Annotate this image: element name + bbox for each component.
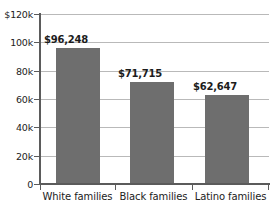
x-axis-label-latino-families: Latino families [192,191,269,202]
y-axis-label-80k: 80k [0,66,33,77]
x-axis-line [39,183,270,185]
x-tick-divider-1 [115,185,116,190]
bar-white-families[interactable] [56,48,100,184]
y-tick-40k [34,127,40,128]
x-axis-label-white-families: White families [40,191,115,202]
bar-black-families[interactable] [130,82,174,184]
x-tick-left [40,185,41,190]
x-tick-right [268,185,269,190]
y-axis-labels: $120k 100k 80k 60k 40k 20k 0 [0,0,33,213]
y-axis-label-20k: 20k [0,151,33,162]
x-axis-label-black-families: Black families [115,191,192,202]
bar-value-white-families: $96,248 [28,34,104,45]
y-axis-label-120k: $120k [0,9,33,20]
bar-value-black-families: $71,715 [102,68,178,79]
y-tick-20k [34,156,40,157]
bar-value-latino-families: $62,647 [177,81,253,92]
bar-chart: $120k 100k 80k 60k 40k 20k 0 $96,248 $71… [0,0,278,213]
y-axis-label-60k: 60k [0,94,33,105]
bar-latino-families[interactable] [205,95,249,184]
y-axis-label-40k: 40k [0,122,33,133]
x-tick-divider-2 [192,185,193,190]
y-axis-label-0: 0 [0,179,33,190]
y-tick-60k [34,99,40,100]
y-tick-120k [34,14,40,15]
y-tick-80k [34,71,40,72]
